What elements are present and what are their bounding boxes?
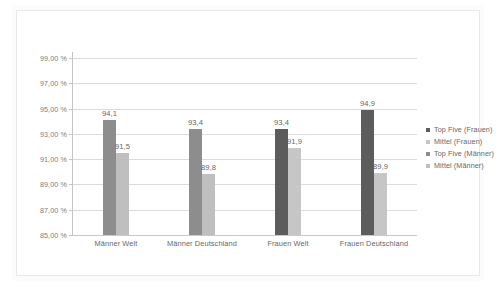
bar (202, 174, 215, 235)
bar (103, 120, 116, 235)
x-axis-category-label: Frauen Welt (267, 239, 308, 248)
bar-value-label: 89,8 (201, 163, 216, 172)
bar (189, 129, 202, 235)
bar (361, 110, 374, 235)
legend-item[interactable]: Mittel (Frauen) (426, 136, 494, 147)
y-axis-tick-label: 89,00 % (40, 180, 67, 189)
y-tick-mark (69, 159, 73, 160)
y-tick-mark (69, 58, 73, 59)
bar-value-label: 94,9 (360, 99, 375, 108)
gridline (73, 235, 417, 236)
bar-value-label: 93,4 (274, 118, 289, 127)
y-axis-tick-label: 85,00 % (40, 231, 67, 240)
legend-item[interactable]: Top Five (Frauen) (426, 124, 494, 135)
legend-swatch-icon (426, 128, 430, 132)
x-axis-category-label: Männer Deutschland (167, 239, 237, 248)
y-axis-tick-label: 87,00 % (40, 205, 67, 214)
x-axis-category-label: Frauen Deutschland (340, 239, 408, 248)
y-tick-mark (69, 134, 73, 135)
legend-item-label: Mittel (Frauen) (434, 137, 482, 146)
y-tick-mark (69, 184, 73, 185)
bar-value-label: 93,4 (188, 118, 203, 127)
legend-swatch-icon (426, 152, 430, 156)
chart-frame: 99,00 %97,00 %95,00 %93,00 %91,00 %89,00… (16, 10, 480, 276)
bar-value-label: 91,9 (287, 137, 302, 146)
x-axis-category-label: Männer Welt (95, 239, 138, 248)
y-tick-mark (69, 83, 73, 84)
y-tick-mark (69, 210, 73, 211)
y-tick-mark (69, 109, 73, 110)
plot-area: 94,191,593,489,893,491,994,989,9 (73, 58, 417, 235)
legend-item[interactable]: Top Five (Männer) (426, 148, 494, 159)
bar-value-label: 94,1 (102, 109, 117, 118)
legend-item-label: Top Five (Frauen) (434, 125, 492, 134)
legend-item[interactable]: Mittel (Männer) (426, 160, 494, 171)
bar-value-label: 91,5 (115, 142, 130, 151)
legend-item-label: Mittel (Männer) (434, 161, 484, 170)
chart-screenshot: 99,00 %97,00 %95,00 %93,00 %91,00 %89,00… (0, 0, 499, 297)
y-axis-tick-label: 93,00 % (40, 129, 67, 138)
y-axis-tick-label: 91,00 % (40, 155, 67, 164)
gridline (73, 83, 417, 84)
bar (374, 173, 387, 235)
chart-legend: Top Five (Frauen)Mittel (Frauen)Top Five… (426, 124, 494, 172)
y-tick-mark (69, 235, 73, 236)
gridline (73, 58, 417, 59)
y-axis-tick-label: 99,00 % (40, 54, 67, 63)
bar (116, 153, 129, 235)
y-axis-tick-label: 97,00 % (40, 79, 67, 88)
legend-swatch-icon (426, 164, 430, 168)
bar (288, 148, 301, 235)
y-axis-tick-label: 95,00 % (40, 104, 67, 113)
bar-value-label: 89,9 (373, 162, 388, 171)
legend-item-label: Top Five (Männer) (434, 149, 494, 158)
legend-swatch-icon (426, 140, 430, 144)
y-axis-labels: 99,00 %97,00 %95,00 %93,00 %91,00 %89,00… (17, 11, 67, 277)
